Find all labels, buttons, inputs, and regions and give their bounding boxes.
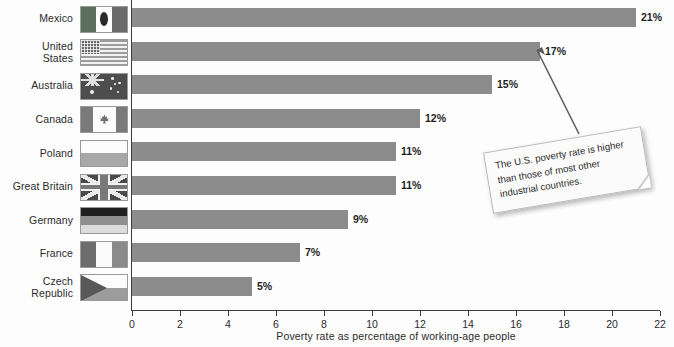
bar bbox=[132, 142, 396, 161]
category-row: Mexico bbox=[0, 4, 128, 34]
category-row: Germany bbox=[0, 206, 128, 236]
flag-united-states-icon bbox=[80, 39, 128, 66]
category-label: Mexico bbox=[39, 13, 80, 25]
flag-great-britain-icon bbox=[80, 174, 128, 201]
x-axis-title: Poverty rate as percentage of working-ag… bbox=[132, 330, 660, 342]
category-row: Canada bbox=[0, 105, 128, 135]
x-axis-tick-label: 12 bbox=[414, 318, 426, 330]
bar bbox=[132, 277, 252, 296]
category-row: Great Britain bbox=[0, 172, 128, 202]
x-axis-tick-label: 0 bbox=[129, 318, 135, 330]
category-label: France bbox=[40, 248, 80, 260]
flag-australia-icon bbox=[80, 73, 128, 100]
category-label: Great Britain bbox=[13, 181, 80, 193]
x-axis-tick bbox=[228, 311, 229, 316]
x-axis-tick-label: 16 bbox=[510, 318, 522, 330]
x-axis-tick bbox=[324, 311, 325, 316]
x-axis-tick bbox=[468, 311, 469, 316]
x-axis-tick-label: 10 bbox=[366, 318, 378, 330]
bar-value-label: 5% bbox=[257, 277, 272, 296]
bar-value-label: 21% bbox=[641, 8, 662, 27]
x-axis-tick bbox=[420, 311, 421, 316]
category-label: Australia bbox=[31, 80, 80, 92]
x-axis-tick-label: 14 bbox=[462, 318, 474, 330]
x-axis-tick bbox=[132, 311, 133, 316]
category-label: United States bbox=[42, 41, 80, 64]
category-row: United States bbox=[0, 38, 128, 68]
category-row: Australia bbox=[0, 71, 128, 101]
category-row: Poland bbox=[0, 138, 128, 168]
x-axis-tick-label: 6 bbox=[273, 318, 279, 330]
flag-canada-icon bbox=[80, 106, 128, 133]
x-axis-tick bbox=[612, 311, 613, 316]
category-row: France bbox=[0, 239, 128, 269]
x-axis-tick bbox=[564, 311, 565, 316]
flag-poland-icon bbox=[80, 140, 128, 167]
category-label: Poland bbox=[40, 148, 80, 160]
bar bbox=[132, 210, 348, 229]
x-axis-tick bbox=[516, 311, 517, 316]
bar bbox=[132, 109, 420, 128]
bar bbox=[132, 75, 492, 94]
flag-france-icon bbox=[80, 241, 128, 268]
bar-value-label: 9% bbox=[353, 210, 368, 229]
category-label: Czech Republic bbox=[0, 276, 80, 299]
x-axis-tick bbox=[372, 311, 373, 316]
bar bbox=[132, 243, 300, 262]
x-axis-tick-label: 2 bbox=[177, 318, 183, 330]
category-row: Czech Republic bbox=[0, 273, 128, 303]
bar bbox=[132, 42, 540, 61]
x-axis-tick bbox=[660, 311, 661, 316]
bar bbox=[132, 8, 636, 27]
x-axis-line bbox=[131, 310, 660, 311]
x-axis-tick-label: 4 bbox=[225, 318, 231, 330]
bar-value-label: 15% bbox=[497, 75, 518, 94]
flag-germany-icon bbox=[80, 207, 128, 234]
x-axis-tick-label: 20 bbox=[606, 318, 618, 330]
x-axis-tick bbox=[180, 311, 181, 316]
bar-value-label: 11% bbox=[401, 142, 421, 161]
flag-mexico-icon bbox=[80, 6, 128, 33]
x-axis-tick-label: 18 bbox=[558, 318, 570, 330]
bar-value-label: 12% bbox=[425, 109, 446, 128]
x-axis-tick-label: 8 bbox=[321, 318, 327, 330]
category-label: Germany bbox=[29, 215, 80, 227]
x-axis-tick-label: 22 bbox=[654, 318, 666, 330]
category-label: Canada bbox=[36, 114, 80, 126]
bar bbox=[132, 176, 396, 195]
bar-value-label: 11% bbox=[401, 176, 421, 195]
callout-fold-corner bbox=[637, 176, 651, 190]
flag-czech-republic-icon bbox=[80, 274, 128, 301]
bar-value-label: 17% bbox=[545, 42, 566, 61]
x-axis-tick bbox=[276, 311, 277, 316]
poverty-rate-bar-chart: MexicoUnited StatesAustraliaCanadaPoland… bbox=[0, 0, 674, 347]
bar-value-label: 7% bbox=[305, 243, 320, 262]
